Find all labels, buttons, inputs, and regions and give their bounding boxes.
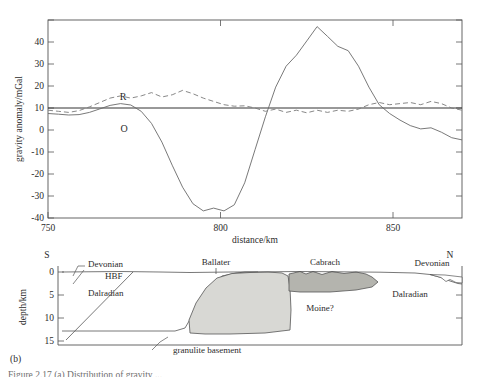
devonian-wedge-right bbox=[430, 275, 462, 284]
label-dalradian-left: Dalradian bbox=[88, 288, 124, 298]
y-tick-label: 20 bbox=[35, 81, 45, 91]
label-granulite-basement: granulite basement bbox=[173, 345, 242, 355]
series-line-O bbox=[48, 27, 462, 211]
panel-id-b: (b) bbox=[10, 354, 21, 365]
gravity-profile-panel: 40 30 20 10 0 -10 -20 -30 -40 -50 gravit… bbox=[14, 20, 462, 245]
x-tick-label: 800 bbox=[213, 223, 228, 233]
x-axis-ticks-bottom bbox=[48, 212, 393, 218]
y-tick-label: -40 bbox=[31, 213, 44, 223]
depth-tick-label: 0 bbox=[49, 267, 54, 277]
x-tick-label: 850 bbox=[386, 223, 401, 233]
label-cabrach: Cabrach bbox=[310, 257, 340, 267]
y-axis-ticks-left bbox=[48, 20, 54, 218]
depth-tick-label: 10 bbox=[45, 313, 55, 323]
cross-section-panel: S N 0 5 10 15 depth/km bbox=[10, 250, 462, 365]
x-tick-label: 750 bbox=[41, 223, 56, 233]
y-tick-label: 0 bbox=[39, 125, 44, 135]
figure-svg: 40 30 20 10 0 -10 -20 -30 -40 -50 gravit… bbox=[0, 0, 477, 377]
y-tick-label: -30 bbox=[31, 191, 44, 201]
label-hbf: HBF bbox=[105, 271, 123, 281]
plot-frame bbox=[48, 20, 462, 218]
label-devonian-right: Devonian bbox=[415, 258, 450, 268]
figure-2-17b: 40 30 20 10 0 -10 -20 -30 -40 -50 gravit… bbox=[0, 0, 477, 377]
series-label-R: R bbox=[120, 91, 127, 102]
y-tick-label: -10 bbox=[31, 147, 44, 157]
devonian-left-leader-tail bbox=[73, 266, 78, 276]
x-axis-tick-labels: 750 800 850 bbox=[41, 223, 401, 233]
y-tick-label: 30 bbox=[35, 59, 45, 69]
hbf-fault-line bbox=[66, 272, 133, 340]
ballater-granite-body bbox=[189, 272, 291, 334]
label-moine: Moine? bbox=[306, 303, 334, 313]
compass-south-label: S bbox=[44, 250, 49, 260]
x-axis-title: distance/km bbox=[232, 235, 279, 245]
label-dalradian-right: Dalradian bbox=[392, 289, 428, 299]
y-axis-tick-labels: 40 30 20 10 0 -10 -20 -30 -40 bbox=[31, 37, 44, 223]
depth-tick-label: 15 bbox=[45, 336, 55, 346]
cabrach-body bbox=[289, 272, 378, 293]
depth-axis-title: depth/km bbox=[18, 288, 28, 324]
granulite-basement-leader bbox=[152, 337, 168, 350]
y-axis-title: gravity anomaly/mGal bbox=[14, 76, 24, 162]
depth-axis-tick-labels: 0 5 10 15 bbox=[45, 267, 55, 346]
label-devonian-left: Devonian bbox=[88, 259, 123, 269]
figure-caption-clipped: Figure 2.17 (a) Distribution of gravity … bbox=[8, 370, 477, 377]
depth-tick-label: 5 bbox=[49, 290, 54, 300]
y-tick-label: 10 bbox=[35, 103, 45, 113]
x-axis-ticks-top bbox=[221, 20, 394, 26]
series-label-O: O bbox=[120, 123, 127, 134]
y-tick-label: 40 bbox=[35, 37, 45, 47]
y-tick-label: -20 bbox=[31, 169, 44, 179]
label-ballater: Ballater bbox=[202, 257, 231, 267]
series-line-R bbox=[48, 90, 462, 112]
